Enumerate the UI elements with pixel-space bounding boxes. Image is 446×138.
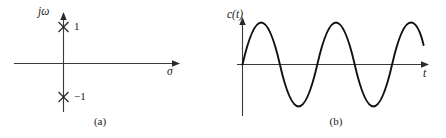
panel-a-pole-zero-plot: jω σ 1 −1 (a)	[0, 0, 223, 138]
pole-label-negative-one: −1	[74, 91, 86, 102]
figure-root: jω σ 1 −1 (a) c(t) t (b)	[0, 0, 446, 138]
panel-a-caption: (a)	[73, 116, 127, 127]
ct-axis	[239, 17, 245, 116]
t-axis-label: t	[423, 68, 426, 80]
jomega-axis-label: jω	[38, 6, 49, 18]
pole-label-positive-one: 1	[74, 21, 80, 32]
sigma-axis	[14, 60, 180, 66]
panel-b-caption: (b)	[309, 116, 363, 127]
ct-axis-label: c(t)	[227, 9, 243, 21]
t-axis	[237, 61, 429, 67]
panel-b-time-response: c(t) t (b)	[223, 0, 446, 138]
sigma-axis-label: σ	[167, 66, 173, 78]
